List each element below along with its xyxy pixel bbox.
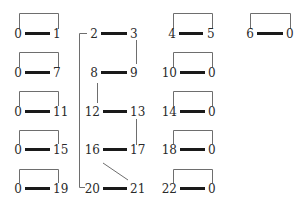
bracket-p22-0 — [174, 170, 213, 184]
node-label-right: 21 — [130, 183, 145, 195]
node-label-left: 22 — [161, 183, 177, 195]
node-label-right: 1 — [53, 28, 61, 40]
bracket-p14-0 — [174, 92, 213, 107]
bar-p8-9 — [101, 71, 127, 74]
node-label-left: 0 — [6, 106, 22, 118]
node-label-left: 0 — [6, 144, 22, 156]
node-label-right: 7 — [53, 67, 61, 79]
node-label-left: 10 — [161, 67, 177, 79]
node-label-left: 16 — [84, 144, 100, 156]
node-label-left: 18 — [161, 144, 177, 156]
node-label-left: 0 — [6, 28, 22, 40]
bar-p0-7 — [25, 71, 50, 74]
bar-p4-5 — [179, 32, 203, 35]
node-label-right: 17 — [130, 144, 145, 156]
bracket-p0-7 — [20, 53, 59, 68]
node-label-right: 0 — [208, 67, 216, 79]
node-label-right: 0 — [208, 144, 216, 156]
node-label-right: 5 — [207, 28, 215, 40]
node-label-left: 8 — [82, 67, 98, 79]
bar-p6-0 — [257, 32, 283, 35]
bar-p20-21 — [103, 187, 127, 190]
connector-16-21 — [103, 163, 128, 180]
node-label-right: 0 — [286, 28, 294, 40]
node-label-left: 20 — [84, 183, 100, 195]
bar-p2-3 — [101, 32, 127, 35]
bracket-p10-0 — [174, 53, 213, 68]
node-label-left: 2 — [82, 28, 98, 40]
bar-p22-0 — [180, 187, 205, 190]
bar-p12-13 — [103, 110, 127, 113]
node-label-right: 0 — [208, 106, 216, 118]
bar-p0-11 — [25, 110, 50, 113]
bracket-p0-11 — [20, 92, 59, 107]
node-label-right: 9 — [130, 67, 138, 79]
node-label-right: 13 — [130, 106, 145, 118]
bar-p0-1 — [25, 32, 50, 35]
node-label-right: 15 — [53, 144, 68, 156]
node-label-left: 14 — [161, 106, 177, 118]
bracket-p0-19 — [20, 170, 59, 184]
node-label-right: 19 — [53, 183, 68, 195]
bar-p0-15 — [25, 148, 50, 151]
diagram-canvas: 0 1 0 7 0 11 0 15 0 19 2 3 8 9 12 13 16 … — [0, 0, 305, 212]
bar-p10-0 — [180, 71, 205, 74]
node-label-right: 11 — [53, 106, 68, 118]
bar-p0-19 — [25, 187, 50, 190]
bar-p18-0 — [180, 148, 205, 151]
bracket-p0-15 — [20, 131, 59, 145]
bracket-p6-0 — [251, 14, 291, 30]
node-label-left: 0 — [6, 183, 22, 195]
bar-p14-0 — [180, 110, 205, 113]
bracket-p18-0 — [174, 131, 213, 145]
node-label-left: 6 — [238, 28, 254, 40]
node-label-right: 3 — [130, 28, 138, 40]
node-label-left: 0 — [6, 67, 22, 79]
node-label-right: 0 — [208, 183, 216, 195]
node-label-left: 4 — [160, 28, 176, 40]
bar-p16-17 — [103, 148, 127, 151]
node-label-left: 12 — [84, 106, 100, 118]
diagram-lines — [0, 0, 305, 212]
